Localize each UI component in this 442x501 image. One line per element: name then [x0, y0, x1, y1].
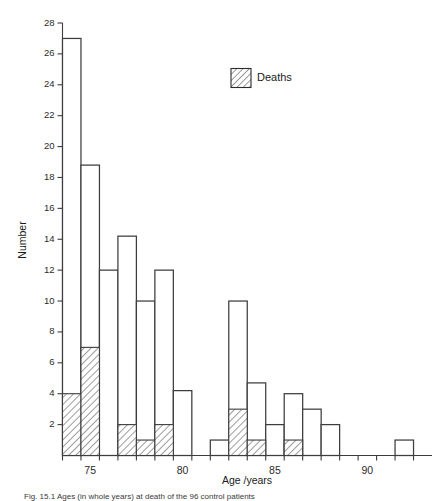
deaths-bar-segment	[155, 425, 173, 456]
y-tick-label: 16	[44, 202, 55, 213]
y-tick-label: 20	[44, 140, 55, 151]
y-axis: 246810121416182022242628 Number	[16, 17, 63, 456]
deaths-bar-segment	[284, 440, 302, 455]
y-tick-label: 12	[44, 264, 55, 275]
deaths-bar-segment	[118, 425, 136, 456]
y-tick-label: 4	[49, 387, 54, 398]
y-tick-label: 2	[49, 418, 54, 429]
y-tick-label: 10	[44, 295, 55, 306]
histogram-bar	[173, 391, 191, 456]
x-tick-label: 75	[84, 464, 96, 476]
y-tick-label: 24	[44, 78, 55, 89]
deaths-bar-segment	[229, 409, 247, 455]
y-tick-label: 14	[44, 233, 55, 244]
histogram-bar	[63, 38, 81, 455]
y-tick-label: 28	[44, 17, 55, 28]
x-axis: 75808590 Age /years	[63, 456, 433, 487]
y-tick-label: 26	[44, 47, 55, 58]
y-axis-tick-labels: 246810121416182022242628	[44, 17, 55, 430]
y-tick-label: 18	[44, 171, 55, 182]
deaths-bar-segment	[63, 394, 81, 456]
deaths-bar-segment	[247, 440, 265, 455]
histogram-bar	[136, 301, 154, 455]
hatched-swatch	[231, 69, 251, 88]
histogram-bar	[210, 440, 228, 455]
histogram-bar	[321, 425, 339, 456]
x-axis-ticks	[63, 456, 414, 461]
y-tick-label: 8	[49, 325, 54, 336]
x-axis-title: Age /years	[222, 474, 272, 486]
deaths-bar-segment	[81, 347, 99, 455]
bars-total-group	[63, 38, 414, 455]
y-tick-label: 6	[49, 356, 54, 367]
histogram-bar	[395, 440, 413, 455]
histogram-bar	[266, 425, 284, 456]
figure-container: 246810121416182022242628 Number 75808590…	[0, 0, 442, 501]
legend-label-deaths: Deaths	[257, 71, 292, 83]
x-tick-label: 80	[177, 464, 189, 476]
y-axis-ticks	[58, 23, 63, 425]
legend: Deaths	[231, 69, 292, 88]
y-tick-label: 22	[44, 109, 55, 120]
x-tick-label: 90	[361, 464, 373, 476]
histogram-bar	[99, 270, 117, 455]
deaths-bar-segment	[136, 440, 154, 455]
y-axis-title: Number	[16, 221, 28, 259]
histogram-bar	[303, 409, 321, 455]
histogram-bar	[118, 236, 136, 455]
figure-caption: Fig. 15.1 Ages (in whole years) at death…	[24, 492, 255, 501]
histogram-chart: 246810121416182022242628 Number 75808590…	[0, 0, 442, 501]
